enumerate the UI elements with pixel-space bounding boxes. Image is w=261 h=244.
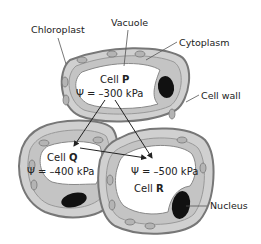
diagram-canvas: Chloroplast Vacuole Cytoplasm Cell wall … bbox=[0, 0, 261, 244]
cell-q-potential: Ψ = –400 kPa bbox=[27, 166, 94, 177]
label-vacuole: Vacuole bbox=[111, 17, 148, 28]
label-chloroplast: Chloroplast bbox=[31, 24, 85, 35]
label-nucleus: Nucleus bbox=[210, 200, 248, 211]
leader-chloroplast bbox=[58, 38, 66, 64]
cell-r bbox=[98, 128, 213, 233]
leader-cell-wall bbox=[186, 95, 199, 102]
cell-p-title: Cell P bbox=[100, 74, 129, 85]
cell-q-title: Cell Q bbox=[47, 152, 77, 163]
cell-p-potential: Ψ = –300 kPa bbox=[76, 88, 143, 99]
label-cytoplasm: Cytoplasm bbox=[179, 37, 230, 48]
label-cell-wall: Cell wall bbox=[201, 90, 241, 101]
cell-r-potential: Ψ = –500 kPa bbox=[131, 166, 198, 177]
cell-r-title: Cell R bbox=[134, 183, 164, 194]
